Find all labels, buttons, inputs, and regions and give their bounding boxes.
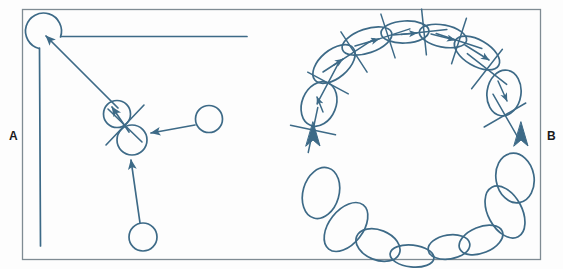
lower-arc-ellipses xyxy=(297,150,539,269)
figure-root: A B xyxy=(0,0,563,269)
circle-right xyxy=(196,106,223,133)
circle-bottom xyxy=(129,223,157,251)
cross-j8 xyxy=(472,82,538,148)
inner-arrow-u5 xyxy=(431,34,455,40)
panel-label-a: A xyxy=(9,130,18,142)
arrow-inner-short xyxy=(112,107,129,132)
ellipse-l2 xyxy=(315,194,376,259)
cross-j4 xyxy=(359,7,417,65)
cross-j6 xyxy=(429,11,489,71)
caret-markers xyxy=(306,122,528,146)
panel-b-group xyxy=(286,7,538,269)
panel-a-group xyxy=(26,13,247,251)
inner-arrow-u3 xyxy=(355,39,379,46)
panel-label-b: B xyxy=(547,130,556,142)
cross-j2 xyxy=(297,52,359,114)
cross-j3 xyxy=(321,19,387,85)
figure-frame xyxy=(23,10,541,260)
ellipse-l7 xyxy=(477,179,533,244)
corner-track-vertical-line xyxy=(40,48,41,246)
ellipse-l3 xyxy=(351,222,405,267)
upper-arc-ellipses xyxy=(295,20,524,132)
corner-track-circle xyxy=(26,13,62,48)
cross-j5 xyxy=(399,7,450,58)
arrow-to-corner xyxy=(46,36,118,108)
arrow-from-right xyxy=(151,125,195,133)
inner-arrow-u2 xyxy=(323,59,343,72)
ellipse-l1 xyxy=(297,163,346,223)
arrow-from-bottom xyxy=(131,160,140,223)
figure-canvas xyxy=(0,0,563,269)
